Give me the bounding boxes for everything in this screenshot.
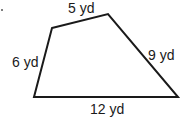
label-right-side: 9 yd [148,48,174,62]
diagram-canvas: 5 yd 6 yd 9 yd 12 yd [0,0,186,120]
marker-dot [1,9,3,11]
label-bottom-side: 12 yd [90,102,124,116]
label-left-side: 6 yd [12,55,38,69]
label-top-side: 5 yd [68,1,94,15]
